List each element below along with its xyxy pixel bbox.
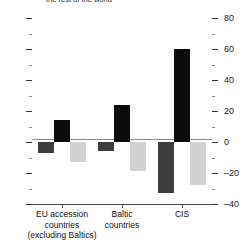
- y-tick: [29, 158, 32, 159]
- y-tick-label: 0: [224, 137, 229, 147]
- bar: [190, 142, 206, 185]
- y-tick: [29, 65, 32, 66]
- x-tick: [182, 204, 183, 208]
- plot-area: [32, 18, 212, 204]
- y-tick: [212, 80, 218, 81]
- y-tick: [212, 49, 218, 50]
- y-tick: [26, 111, 32, 112]
- y-tick: [212, 142, 218, 143]
- y-tick: [212, 111, 218, 112]
- x-tick: [62, 204, 63, 208]
- y-tick: [29, 96, 32, 97]
- x-tick: [122, 204, 123, 208]
- bar: [114, 105, 130, 142]
- y-tick: [212, 158, 215, 159]
- bar: [54, 120, 70, 142]
- x-tick-label-line: (excluding Baltics): [10, 230, 114, 241]
- y-tick-label: 60: [224, 44, 234, 54]
- y-tick-label: –20: [224, 168, 239, 178]
- y-tick: [26, 142, 32, 143]
- y-tick-label: 40: [224, 75, 234, 85]
- y-tick-label: –40: [224, 199, 239, 209]
- y-tick: [212, 127, 215, 128]
- x-tick-label-line: countries: [70, 220, 174, 231]
- bar: [38, 142, 54, 153]
- y-tick: [212, 189, 215, 190]
- y-tick: [26, 80, 32, 81]
- y-tick-label: 80: [224, 13, 234, 23]
- x-tick-label: CIS: [130, 209, 234, 220]
- chart-title: the rest of the world: [46, 0, 196, 4]
- bar: [130, 142, 146, 171]
- y-tick: [26, 18, 32, 19]
- y-tick: [212, 204, 218, 205]
- y-tick: [29, 189, 32, 190]
- y-tick: [212, 173, 218, 174]
- y-tick: [29, 34, 32, 35]
- chart-root: the rest of the world –40–20020406080 EU…: [0, 0, 252, 250]
- x-tick-label-line: CIS: [130, 209, 234, 220]
- bar: [158, 142, 174, 193]
- y-tick: [212, 18, 218, 19]
- y-tick: [26, 49, 32, 50]
- bar: [98, 142, 114, 151]
- y-tick-label: 20: [224, 106, 234, 116]
- y-tick: [212, 96, 215, 97]
- y-tick: [212, 65, 215, 66]
- bar: [70, 142, 86, 162]
- y-tick: [212, 34, 215, 35]
- y-tick: [26, 173, 32, 174]
- bar: [174, 49, 190, 142]
- y-tick: [29, 127, 32, 128]
